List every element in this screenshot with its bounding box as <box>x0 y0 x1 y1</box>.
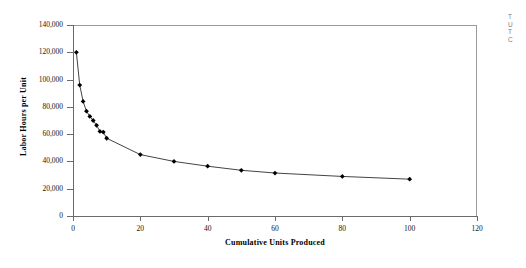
side-note-line-1: T <box>508 13 526 21</box>
data-point-marker <box>101 130 106 135</box>
learning-curve-chart: 020,00040,00060,00080,000100,000120,0001… <box>0 0 526 268</box>
x-axis-title: Cumulative Units Produced <box>73 238 477 247</box>
y-axis-title: Labor Hours per Unit <box>19 47 28 187</box>
data-series-layer <box>0 0 526 268</box>
data-point-marker <box>273 171 278 176</box>
data-point-marker <box>104 136 109 141</box>
data-point-marker <box>74 50 79 55</box>
data-point-marker <box>340 174 345 179</box>
data-point-marker <box>138 152 143 157</box>
side-note-line-3: T <box>508 28 526 36</box>
data-point-marker <box>172 159 177 164</box>
side-note-line-4: C <box>508 36 526 44</box>
data-point-marker <box>239 168 244 173</box>
side-note-line-2: U <box>508 21 526 29</box>
data-point-marker <box>407 177 412 182</box>
series-line <box>76 52 409 179</box>
data-point-marker <box>77 83 82 88</box>
side-note-text: T U T C <box>508 13 526 43</box>
series-markers <box>74 50 412 182</box>
data-point-marker <box>205 164 210 169</box>
data-point-marker <box>81 99 86 104</box>
